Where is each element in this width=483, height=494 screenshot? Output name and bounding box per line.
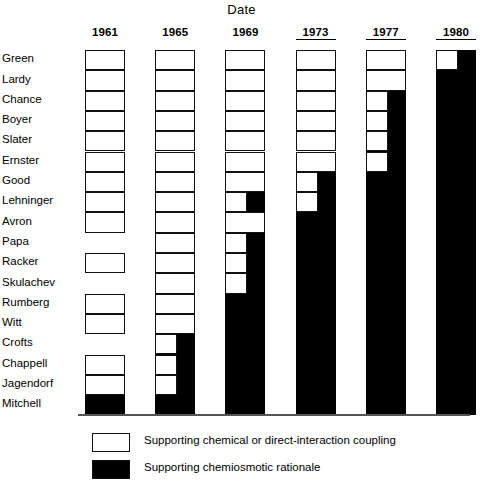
cell-1969-ernster (225, 152, 265, 172)
cell-1961-ernster (85, 152, 125, 172)
cell-1965-witt (155, 314, 195, 334)
cell-1965-good (155, 172, 195, 192)
cell-1969-skulachev (225, 273, 247, 293)
cell-1965-crofts (155, 334, 177, 354)
cell-1961-green (85, 50, 125, 70)
cell-1965-jagendorf (155, 375, 177, 395)
cell-1965-green (155, 50, 195, 70)
column-black-fill-1980 (436, 50, 476, 415)
cell-1961-avron (85, 212, 125, 232)
cell-1969-chance (225, 91, 265, 111)
cell-1973-lehninger (296, 192, 318, 212)
cell-1961-jagendorf (85, 375, 125, 395)
cell-1965-chance (155, 91, 195, 111)
cell-1961-chappell (85, 355, 125, 375)
cell-1961-slater (85, 131, 125, 151)
cell-1961-lehninger (85, 192, 125, 212)
column-black-fill-1961 (85, 395, 125, 415)
cell-1980-green (436, 50, 458, 70)
cell-1977-lardy (366, 70, 406, 90)
legend-item-chemical: Supporting chemical or direct-interactio… (92, 430, 472, 457)
cell-1965-lardy (155, 70, 195, 90)
cell-1973-chance (296, 91, 336, 111)
cell-1961-lardy (85, 70, 125, 90)
cell-1961-good (85, 172, 125, 192)
cell-1977-ernster (366, 152, 388, 172)
cell-1961-boyer (85, 111, 125, 131)
cell-1969-boyer (225, 111, 265, 131)
cell-1973-good (296, 172, 318, 192)
cell-1977-boyer (366, 111, 388, 131)
cell-1969-slater (225, 131, 265, 151)
cell-1969-good (225, 172, 265, 192)
cell-1977-green (366, 50, 406, 70)
legend-swatch-filled (92, 460, 130, 479)
cell-1977-chance (366, 91, 388, 111)
cell-1969-lardy (225, 70, 265, 90)
cell-1965-papa (155, 233, 195, 253)
cell-1969-green (225, 50, 265, 70)
cell-1965-chappell (155, 355, 177, 375)
cell-1961-rumberg (85, 294, 125, 314)
cell-1965-boyer (155, 111, 195, 131)
cell-1965-ernster (155, 152, 195, 172)
cell-1961-chance (85, 91, 125, 111)
cell-1969-lehninger (225, 192, 247, 212)
legend-item-chemiosmotic: Supporting chemiosmotic rationale (92, 457, 472, 484)
cell-1977-slater (366, 131, 388, 151)
legend-label: Supporting chemical or direct-interactio… (144, 434, 396, 446)
legend-swatch-empty (92, 433, 130, 452)
cell-1965-avron (155, 212, 195, 232)
cell-1965-slater (155, 131, 195, 151)
chart-root: Date 196119651969197319771980 GreenLardy… (0, 0, 483, 494)
cell-1965-lehninger (155, 192, 195, 212)
cell-1969-avron (225, 212, 265, 232)
cell-1961-racker (85, 253, 125, 273)
cell-1973-ernster (296, 152, 336, 172)
cell-1969-racker (225, 253, 247, 273)
legend-label: Supporting chemiosmotic rationale (144, 461, 320, 473)
cell-1969-papa (225, 233, 247, 253)
cell-1973-green (296, 50, 336, 70)
chart-legend: Supporting chemical or direct-interactio… (92, 430, 472, 484)
cell-1961-witt (85, 314, 125, 334)
cell-1965-racker (155, 253, 195, 273)
cell-1973-boyer (296, 111, 336, 131)
chart-plot-area (0, 0, 483, 420)
cell-1965-rumberg (155, 294, 195, 314)
cell-1973-lardy (296, 70, 336, 90)
cell-1965-skulachev (155, 273, 195, 293)
x-axis-baseline (78, 414, 470, 416)
cell-1973-slater (296, 131, 336, 151)
